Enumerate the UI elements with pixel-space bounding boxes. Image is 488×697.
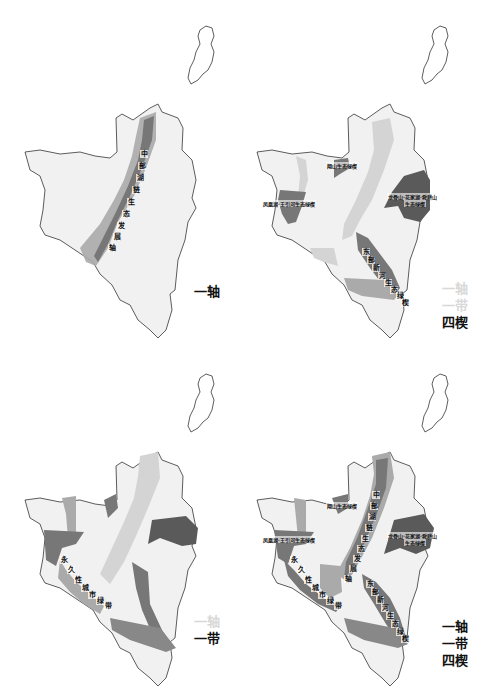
legend-wedges: 四楔 xyxy=(442,314,468,331)
legend: 一轴 xyxy=(194,283,220,300)
legend-axis: 一轴 xyxy=(194,613,220,630)
legend: 一轴 一带 xyxy=(194,613,220,647)
wedge-label-fenghuanghu: 凤凰湖·王引河生态绿楔 xyxy=(262,200,316,207)
legend-axis: 一轴 xyxy=(194,283,220,300)
wedge-label-xiangshan: 翔山生态绿楔 xyxy=(326,162,358,169)
legend: 一轴 一带 四楔 xyxy=(442,280,468,331)
legend: 一轴 一带 四楔 xyxy=(442,618,468,669)
panel-axis: 中 部 湖 链 生 态 发 展 轴 一轴 xyxy=(0,0,244,348)
legend-belt: 一带 xyxy=(442,297,468,314)
wedge-label-longgushan-2: 生态绿楔 xyxy=(404,200,426,207)
wedge-label-longgushan-1: 龙骨山·花家湖·舜耕山 xyxy=(387,532,438,539)
legend-belt: 一带 xyxy=(442,635,468,652)
legend-belt: 一带 xyxy=(194,630,220,647)
wedge-label-fenghuanghu: 凤凰湖·王引河生态绿楔 xyxy=(262,536,316,543)
panel-belt: 永 久 性 城 市 绿 带 一轴 一带 xyxy=(0,348,244,696)
wedge-label-xiangshan: 翔山生态绿楔 xyxy=(326,502,358,509)
panel-wedges: 翔山生态绿楔 凤凰湖·王引河生态绿楔 龙骨山·花家湖·舜耕山 生态绿楔 东 部 … xyxy=(244,0,488,348)
wedge-label-longgushan-2: 生态绿楔 xyxy=(404,539,426,546)
legend-axis: 一轴 xyxy=(442,618,468,635)
wedge-label-longgushan-1: 龙骨山·花家湖·舜耕山 xyxy=(387,193,438,200)
legend-wedges: 四楔 xyxy=(442,652,468,669)
legend-axis: 一轴 xyxy=(442,280,468,297)
panel-combined: 中 部 湖 链 生 态 发 展 轴 永 久 性 城 市 绿 带 翔山生态绿楔 凤… xyxy=(244,348,488,696)
